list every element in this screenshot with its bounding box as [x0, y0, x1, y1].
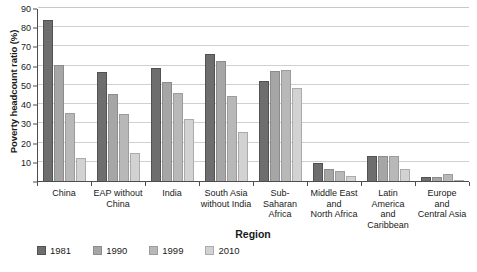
bar [270, 71, 280, 181]
bar-group [254, 9, 308, 181]
bar [421, 177, 431, 181]
gridline [38, 7, 469, 8]
bar [108, 94, 118, 181]
bar [238, 132, 248, 181]
bar [400, 169, 410, 181]
x-category-label-line: North Africa [308, 209, 360, 220]
x-category-label-line: Middle East [308, 188, 360, 199]
legend-label: 2010 [218, 245, 239, 256]
x-category-label-line: EAP without [92, 188, 144, 199]
bar-group [146, 9, 200, 181]
legend-swatch-icon [205, 246, 214, 255]
bar [292, 88, 302, 181]
y-tick-label: 40 [21, 100, 31, 110]
bar [313, 163, 323, 181]
y-tick-label: 30 [21, 119, 31, 129]
bar [281, 70, 291, 181]
chart-legend: 1981199019992010 [37, 245, 469, 256]
x-category-label: Middle EastandNorth Africa [307, 188, 361, 230]
x-tick-mark [253, 182, 254, 186]
bar-group [361, 9, 415, 181]
bar [151, 68, 161, 181]
bar [119, 114, 129, 181]
x-axis-ticks [37, 182, 469, 187]
y-tick-label: 60 [21, 62, 31, 72]
x-category-label-line: and [362, 209, 414, 220]
bar-group [200, 9, 254, 181]
y-tick-label: 50 [21, 81, 31, 91]
bar-groups [38, 9, 469, 181]
bar [378, 156, 388, 181]
bar-chart: Poverty headcount ratio (%) 102030405060… [0, 0, 477, 272]
bar-group [38, 9, 92, 181]
x-tick-mark [361, 182, 362, 186]
x-tick-mark [307, 182, 308, 186]
x-category-label: EAP withoutChina [91, 188, 145, 230]
bar [389, 156, 399, 181]
x-category-label-line: without India [200, 199, 252, 210]
legend-item[interactable]: 1999 [149, 245, 183, 256]
plot-area [37, 9, 469, 182]
x-category-label: India [145, 188, 199, 230]
x-category-label: Latin AmericaandCaribbean [361, 188, 415, 230]
bar [259, 81, 269, 181]
x-axis-labels: ChinaEAP withoutChinaIndiaSouth Asiawith… [37, 188, 469, 230]
x-tick-mark [91, 182, 92, 186]
x-tick-mark [469, 182, 470, 186]
bar [54, 65, 64, 181]
y-tick-label: 70 [21, 42, 31, 52]
bar [173, 93, 183, 181]
bar [97, 72, 107, 181]
x-category-label-line: South Asia [200, 188, 252, 199]
x-category-label: EuropeandCentral Asia [415, 188, 469, 230]
bar [43, 20, 53, 181]
legend-item[interactable]: 2010 [205, 245, 239, 256]
legend-label: 1990 [106, 245, 127, 256]
bar [346, 176, 356, 181]
x-category-label-line: Sub-Saharan [254, 188, 306, 209]
bar [443, 174, 453, 181]
y-tick-label: 20 [21, 139, 31, 149]
x-category-label: Sub-SaharanAfrica [253, 188, 307, 230]
legend-label: 1999 [162, 245, 183, 256]
x-category-label-line: Central Asia [416, 209, 468, 220]
x-tick-mark [145, 182, 146, 186]
x-axis-title: Region [37, 228, 469, 240]
y-tick-label: 90 [21, 4, 31, 14]
x-category-label-line: and [308, 199, 360, 210]
legend-swatch-icon [149, 246, 158, 255]
bar-group [307, 9, 361, 181]
bar [335, 171, 345, 181]
bar [227, 96, 237, 181]
bar [454, 180, 464, 181]
x-category-label-line: Africa [254, 209, 306, 220]
legend-item[interactable]: 1981 [37, 245, 71, 256]
bar [65, 113, 75, 181]
y-tick-label: 80 [21, 23, 31, 33]
x-tick-mark [37, 182, 38, 186]
x-category-label: China [37, 188, 91, 230]
bar [162, 82, 172, 181]
y-axis-ticks: 102030405060708090 [0, 9, 37, 182]
legend-label: 1981 [50, 245, 71, 256]
bar [184, 119, 194, 181]
bar [367, 156, 377, 181]
bar-group [415, 9, 469, 181]
legend-swatch-icon [37, 246, 46, 255]
y-tick-label: 10 [21, 158, 31, 168]
bar [216, 61, 226, 181]
legend-item[interactable]: 1990 [93, 245, 127, 256]
x-tick-mark [415, 182, 416, 186]
x-category-label-line: China [92, 199, 144, 210]
bar [205, 54, 215, 181]
x-category-label: South Asiawithout India [199, 188, 253, 230]
bar-group [92, 9, 146, 181]
x-category-label-line: Europe [416, 188, 468, 199]
x-tick-mark [199, 182, 200, 186]
bar [324, 169, 334, 181]
bar [130, 153, 140, 181]
bar [76, 158, 86, 181]
x-category-label-line: Latin America [362, 188, 414, 209]
x-category-label-line: and [416, 199, 468, 210]
legend-swatch-icon [93, 246, 102, 255]
